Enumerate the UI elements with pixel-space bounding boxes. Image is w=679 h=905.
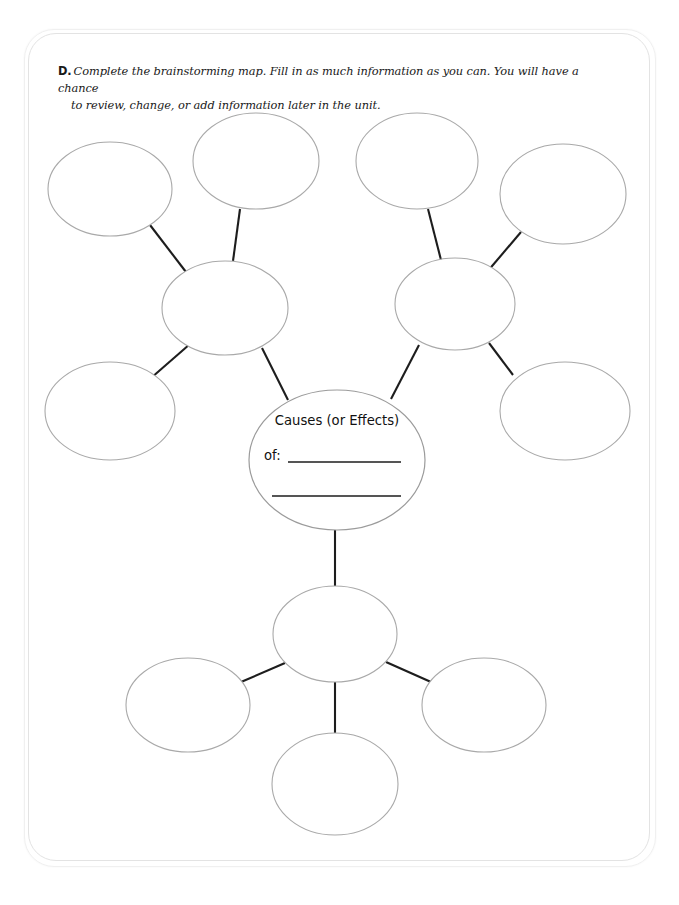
left-side-oval[interactable] xyxy=(45,362,175,460)
connector-bottom-hub-to-bottom-right xyxy=(386,662,431,682)
connector-top-left-to-left-hub xyxy=(150,225,186,272)
bottom-left-oval[interactable] xyxy=(126,658,250,752)
center-oval-title: Causes (or Effects) xyxy=(275,413,400,428)
connector-right-hub-to-center xyxy=(391,345,419,399)
brainstorming-map-diagram: Causes (or Effects) of: xyxy=(0,0,679,905)
worksheet-page: D.Complete the brainstorming map. Fill i… xyxy=(0,0,679,905)
connector-bottom-hub-to-bottom-left xyxy=(241,663,285,682)
top-left-oval[interactable] xyxy=(48,142,172,236)
top-mid-right-oval[interactable] xyxy=(356,113,478,209)
bottom-right-oval[interactable] xyxy=(422,658,546,752)
connector-top-right-to-right-hub xyxy=(487,232,521,272)
connector-top-mid-left-to-left-hub xyxy=(233,209,240,261)
bottom-hub-oval[interactable] xyxy=(273,586,397,682)
left-hub-oval[interactable] xyxy=(162,261,288,355)
connector-top-mid-right-to-right-hub xyxy=(428,209,441,260)
bottom-center-oval[interactable] xyxy=(272,733,398,835)
center-oval-prefix: of: xyxy=(264,448,281,463)
connector-right-side-to-right-hub xyxy=(489,343,513,375)
connector-left-side-to-left-hub xyxy=(151,344,190,378)
connector-left-hub-to-center xyxy=(262,348,288,400)
right-side-oval[interactable] xyxy=(500,362,630,460)
ovals-group xyxy=(45,113,630,835)
right-hub-oval[interactable] xyxy=(395,258,515,350)
top-mid-left-oval[interactable] xyxy=(193,113,319,209)
top-right-oval[interactable] xyxy=(500,144,626,244)
